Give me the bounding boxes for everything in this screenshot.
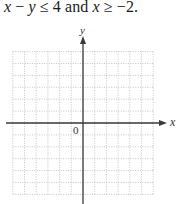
y-axis-arrow-icon bbox=[80, 36, 86, 44]
x-axis-label: x bbox=[170, 116, 175, 128]
origin-label: 0 bbox=[73, 125, 79, 136]
x-axis-arrow-icon bbox=[159, 120, 167, 126]
y-axis-label: y bbox=[80, 25, 85, 36]
coordinate-grid bbox=[0, 0, 181, 204]
